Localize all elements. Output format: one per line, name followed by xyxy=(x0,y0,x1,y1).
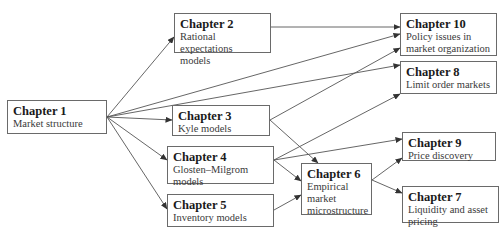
node-title: Chapter 7 xyxy=(408,190,493,204)
node-title: Chapter 2 xyxy=(180,17,265,31)
node-subtitle: Limit order markets xyxy=(406,79,491,91)
node-subtitle: Market structure xyxy=(13,118,101,130)
node-title: Chapter 8 xyxy=(406,65,491,79)
edge-ch1-ch3 xyxy=(107,117,172,120)
node-chapter-5: Chapter 5 Inventory models xyxy=(167,194,274,227)
node-subtitle: Price discovery xyxy=(408,150,490,162)
node-title: Chapter 6 xyxy=(307,167,366,181)
edge-ch1-ch2 xyxy=(107,37,174,117)
node-subtitle: Kyle models xyxy=(178,123,264,135)
node-chapter-3: Chapter 3 Kyle models xyxy=(172,105,270,136)
node-chapter-7: Chapter 7 Liquidity and asset pricing xyxy=(402,186,499,223)
node-subtitle: Liquidity and asset pricing xyxy=(408,204,493,228)
node-subtitle: Glosten–Milgrom models xyxy=(173,164,268,188)
edge-ch6-ch7 xyxy=(372,180,402,193)
edge-ch4-ch6 xyxy=(274,160,301,181)
node-title: Chapter 3 xyxy=(178,109,264,123)
node-chapter-9: Chapter 9 Price discovery xyxy=(402,132,496,161)
node-subtitle: Empirical market microstructure xyxy=(307,181,366,217)
node-chapter-6: Chapter 6 Empirical market microstructur… xyxy=(301,163,372,215)
node-title: Chapter 4 xyxy=(173,150,268,164)
node-chapter-10: Chapter 10 Policy issues in market organ… xyxy=(400,13,497,56)
node-title: Chapter 10 xyxy=(406,17,491,31)
node-subtitle: Inventory models xyxy=(173,212,268,224)
edge-ch1-ch5 xyxy=(107,117,167,209)
node-chapter-2: Chapter 2 Rational expectations models xyxy=(174,13,271,53)
edge-ch1-ch4 xyxy=(107,117,167,160)
node-chapter-4: Chapter 4 Glosten–Milgrom models xyxy=(167,146,274,184)
node-subtitle: Rational expectations models xyxy=(180,31,265,67)
node-title: Chapter 5 xyxy=(173,198,268,212)
node-chapter-8: Chapter 8 Limit order markets xyxy=(400,61,497,94)
node-title: Chapter 1 xyxy=(13,104,101,118)
edge-ch6-ch9 xyxy=(372,158,402,180)
node-title: Chapter 9 xyxy=(408,136,490,150)
node-chapter-1: Chapter 1 Market structure xyxy=(7,100,107,134)
node-subtitle: Policy issues in market organization xyxy=(406,31,491,55)
edge-ch5-ch6 xyxy=(274,195,301,210)
edge-ch3-ch10 xyxy=(270,48,400,120)
